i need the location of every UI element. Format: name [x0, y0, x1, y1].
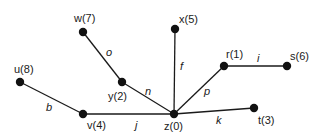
node-t [250, 104, 258, 112]
node-label-s: s(6) [290, 50, 309, 62]
node-w [79, 28, 87, 36]
node-label-x: x(5) [179, 13, 198, 25]
edge-label-p: p [203, 85, 210, 97]
node-z [170, 110, 178, 118]
node-label-r: r(1) [226, 48, 243, 60]
graph-diagram: onfpibjk w(7)x(5)r(1)s(6)u(8)y(2)v(4)z(0… [0, 0, 325, 137]
node-label-w: w(7) [73, 12, 95, 24]
edge-label-i: i [257, 52, 260, 64]
node-u [16, 78, 24, 86]
nodes-group [16, 25, 291, 118]
node-y [118, 78, 126, 86]
node-x [171, 25, 179, 33]
edge-label-f: f [180, 60, 184, 72]
node-v [79, 110, 87, 118]
edge-label-n: n [145, 85, 151, 97]
node-s [283, 62, 291, 70]
node-r [220, 62, 228, 70]
edge-label-o: o [106, 46, 112, 58]
node-label-u: u(8) [14, 63, 34, 75]
node-label-y: y(2) [108, 90, 127, 102]
edge-x-z [174, 29, 175, 114]
edge-z-t [174, 108, 254, 114]
node-label-z: z(0) [164, 120, 183, 132]
node-label-t: t(3) [258, 114, 275, 126]
edge-label-j: j [133, 119, 138, 131]
edges-group [20, 29, 287, 114]
edge-w-y [83, 32, 122, 82]
edge-r-z [174, 66, 224, 114]
node-label-v: v(4) [87, 119, 106, 131]
edge-label-k: k [216, 114, 222, 126]
edge-label-b: b [46, 101, 52, 113]
